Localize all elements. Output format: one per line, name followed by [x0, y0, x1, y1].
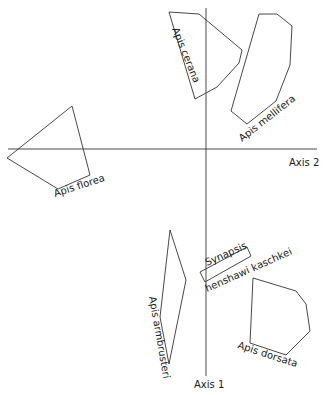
axis-2-label: Axis 2 [289, 157, 319, 168]
label-apis-dorsata: Apis dorsata [236, 339, 299, 369]
hull-apis-florea [7, 106, 90, 189]
label-apis-florea: Apis florea [52, 172, 106, 199]
ordination-diagram: Axis 2 Axis 1 Apis cerana Apis mellifera… [0, 0, 327, 395]
label-apis-cerana: Apis cerana [170, 26, 202, 85]
label-apis-mellifera: Apis mellifera [236, 93, 297, 144]
label-synapsis-line1: Synapsis [203, 240, 248, 268]
label-apis-armbrusteri: Apis armbrusteri [147, 295, 172, 379]
axis-1-label: Axis 1 [194, 379, 224, 390]
hull-apis-dorsata [250, 278, 310, 355]
